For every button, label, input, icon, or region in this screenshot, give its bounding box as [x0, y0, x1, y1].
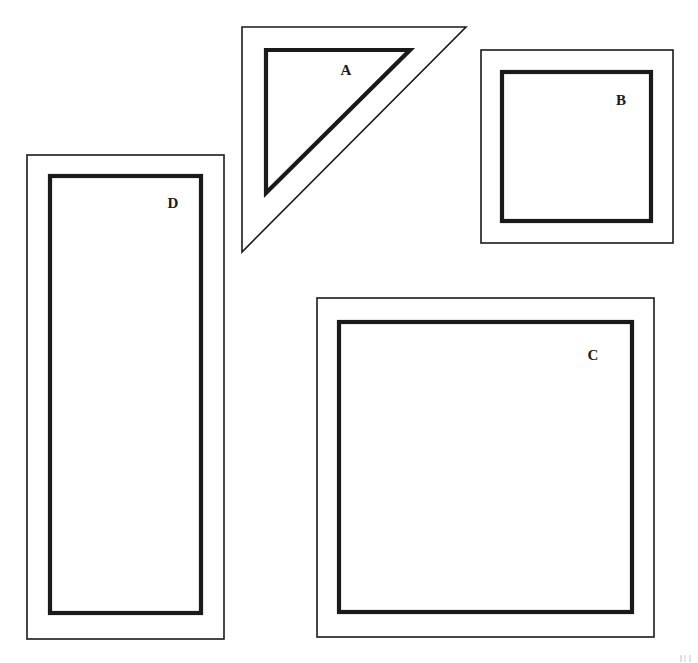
shape-c-group[interactable] — [317, 298, 654, 637]
shape-b-group[interactable] — [481, 50, 673, 243]
shape-label-c: C — [588, 348, 599, 363]
shapes-svg — [0, 0, 698, 663]
shape-a-group[interactable] — [242, 27, 466, 252]
shape-b-inner-square[interactable] — [502, 72, 651, 221]
shape-d-inner-rectangle[interactable] — [50, 176, 201, 613]
scan-artifact — [680, 655, 696, 662]
shape-label-b: B — [616, 93, 626, 108]
figure-canvas: A B C D — [0, 0, 698, 663]
shape-label-d: D — [168, 196, 179, 211]
shape-c-inner-square[interactable] — [339, 322, 632, 612]
shape-label-a: A — [341, 63, 352, 78]
shape-a-inner-triangle[interactable] — [266, 50, 410, 193]
shape-d-group[interactable] — [27, 155, 224, 639]
